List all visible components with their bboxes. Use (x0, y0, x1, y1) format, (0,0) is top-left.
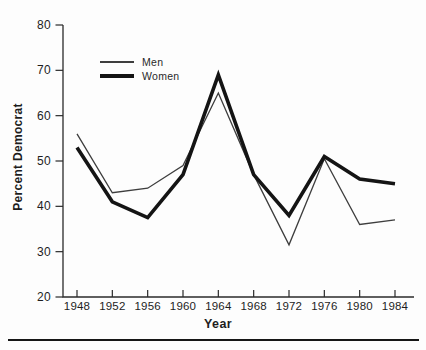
y-tick-label: 20 (0, 290, 51, 304)
men-line-swatch (100, 61, 134, 63)
y-tick-label: 50 (0, 154, 51, 168)
x-tick-label: 1948 (59, 300, 95, 312)
plot-svg (0, 0, 426, 350)
x-tick-label: 1960 (165, 300, 201, 312)
x-tick-label: 1956 (130, 300, 166, 312)
y-tick-label: 30 (0, 245, 51, 259)
bottom-rule (8, 339, 419, 341)
x-tick-label: 1976 (306, 300, 342, 312)
x-tick-label: 1980 (342, 300, 378, 312)
y-tick-label: 80 (0, 18, 51, 32)
legend-label-men: Men (142, 56, 163, 68)
chart-figure: 2030405060708019481952195619601964196819… (0, 0, 426, 350)
x-tick-label: 1984 (377, 300, 413, 312)
y-axis-title: Percent Democrat (11, 103, 25, 211)
x-tick-label: 1964 (200, 300, 236, 312)
legend-item-men: Men (100, 55, 180, 69)
x-tick-label: 1972 (271, 300, 307, 312)
legend-item-women: Women (100, 69, 180, 83)
y-tick-label: 40 (0, 199, 51, 213)
y-tick-label: 60 (0, 109, 51, 123)
women-line-swatch (100, 74, 134, 78)
legend-label-women: Women (142, 70, 180, 82)
x-tick-label: 1952 (94, 300, 130, 312)
y-tick-label: 70 (0, 63, 51, 77)
legend: Men Women (100, 55, 180, 83)
x-axis-title: Year (204, 317, 232, 331)
x-tick-label: 1968 (236, 300, 272, 312)
